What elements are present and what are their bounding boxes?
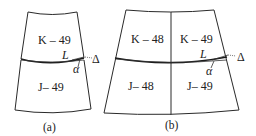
map-sheet-diagram: K – 49 J– 49 L α Δ (a) K – 48 K – 49 J– … — [0, 0, 256, 136]
sheet-label-j49: J– 49 — [38, 80, 64, 94]
caption-a: (a) — [43, 121, 56, 134]
label-delta: Δ — [237, 50, 245, 64]
sheet-left-edge — [104, 10, 126, 113]
panel-a: K – 49 J– 49 L α Δ (a) — [15, 12, 100, 134]
sheet-k49-left-edge — [21, 12, 28, 59]
sheet-label-k49: K – 49 — [38, 33, 71, 47]
label-alpha: α — [206, 64, 213, 78]
label-L: L — [199, 47, 207, 61]
sheet-label-k49: K – 49 — [180, 32, 213, 46]
caption-b: (b) — [165, 119, 179, 132]
delta-gap — [85, 57, 92, 58]
label-L: L — [61, 48, 69, 62]
delta-gap — [228, 55, 236, 56]
sheet-label-k48: K – 48 — [131, 32, 164, 46]
label-delta: Δ — [92, 52, 100, 66]
sheet-label-j49: J– 49 — [187, 79, 213, 93]
label-alpha: α — [73, 62, 80, 76]
panel-b: K – 48 K – 49 J– 48 J– 49 L α Δ (b) — [104, 10, 245, 132]
sheet-top-edge — [126, 10, 214, 12]
sheet-label-j48: J– 48 — [128, 79, 154, 93]
